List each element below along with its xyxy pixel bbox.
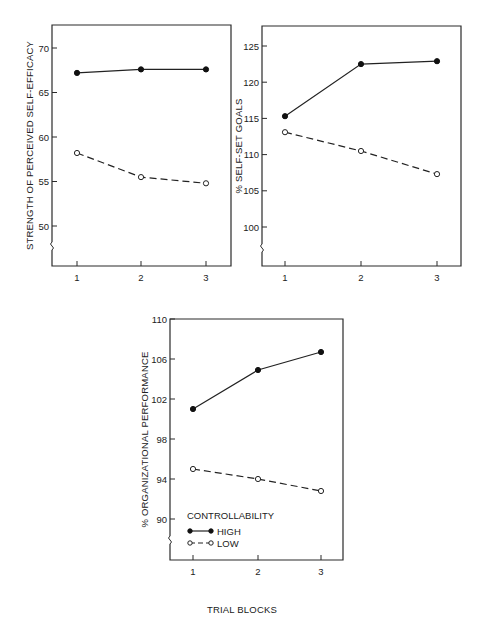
y-tick-label: 70 xyxy=(38,43,49,54)
x-tick-label: 3 xyxy=(318,566,323,577)
filled-circle-icon xyxy=(434,59,439,64)
y-tick-label: 100 xyxy=(243,222,259,233)
y-tick-label: 102 xyxy=(151,394,167,405)
open-circle-icon xyxy=(358,148,363,153)
y-tick-label: 110 xyxy=(244,149,259,160)
series-line-high xyxy=(193,352,321,409)
panel-organizational-performance: 909498102106110123% ORGANIZATIONAL PERFO… xyxy=(139,314,343,578)
open-circle-icon xyxy=(74,150,79,155)
open-circle-icon xyxy=(434,172,439,177)
filled-circle-icon xyxy=(74,70,79,75)
x-tick-label: 1 xyxy=(282,272,287,283)
open-circle-icon xyxy=(318,488,323,493)
x-tick-label: 1 xyxy=(74,272,79,283)
open-circle-icon xyxy=(190,466,195,471)
x-tick-label: 1 xyxy=(190,566,195,577)
y-tick-label: 105 xyxy=(243,185,259,196)
panel-self-set-goals: 100105110115120125123% SELF-SET GOALS xyxy=(233,26,461,283)
axis-break-icon xyxy=(51,242,54,250)
filled-circle-icon xyxy=(138,67,143,72)
legend-title: CONTROLLABILITY xyxy=(187,510,275,521)
open-circle-icon xyxy=(188,541,192,545)
filled-circle-icon xyxy=(255,367,260,372)
y-tick-label: 115 xyxy=(244,113,259,124)
figure: 5055606570123STRENGTH OF PERCEIVED SELF-… xyxy=(0,0,484,629)
legend-item-high: HIGH xyxy=(188,526,241,537)
filled-circle-icon xyxy=(318,349,323,354)
filled-circle-icon xyxy=(190,406,195,411)
x-tick-label: 2 xyxy=(138,272,143,283)
x-tick-label: 2 xyxy=(255,566,260,577)
x-tick-label: 2 xyxy=(358,272,363,283)
filled-circle-icon xyxy=(282,114,287,119)
y-tick-label: 120 xyxy=(243,77,259,88)
y-axis-title: % ORGANIZATIONAL PERFORMANCE xyxy=(139,351,150,527)
y-tick-label: 98 xyxy=(156,434,167,445)
y-tick-label: 110 xyxy=(152,314,167,325)
axis-break-icon xyxy=(169,536,172,544)
open-circle-icon xyxy=(138,175,143,180)
panel-self-efficacy: 5055606570123STRENGTH OF PERCEIVED SELF-… xyxy=(24,25,231,283)
y-tick-label: 94 xyxy=(156,474,167,485)
legend-item-low: LOW xyxy=(188,538,239,549)
open-circle-icon xyxy=(209,541,213,545)
legend-label-low: LOW xyxy=(217,538,239,549)
y-tick-label: 50 xyxy=(38,221,49,232)
filled-circle-icon xyxy=(209,529,213,533)
open-circle-icon xyxy=(203,181,208,186)
y-tick-label: 106 xyxy=(151,354,167,365)
series-line-high xyxy=(285,61,437,116)
axis-break-icon xyxy=(261,244,264,252)
x-axis-title: TRIAL BLOCKS xyxy=(0,604,484,615)
x-tick-label: 3 xyxy=(434,272,439,283)
y-tick-label: 55 xyxy=(38,176,49,187)
filled-circle-icon xyxy=(188,529,192,533)
legend-label-high: HIGH xyxy=(217,526,241,537)
y-tick-label: 65 xyxy=(38,87,49,98)
open-circle-icon xyxy=(255,476,260,481)
legend: CONTROLLABILITY HIGH LOW xyxy=(187,510,275,549)
plot-frame xyxy=(52,25,231,266)
filled-circle-icon xyxy=(358,62,363,67)
x-tick-label: 3 xyxy=(203,272,208,283)
y-tick-label: 60 xyxy=(38,132,49,143)
open-circle-icon xyxy=(282,130,287,135)
y-axis-title: % SELF-SET GOALS xyxy=(233,99,244,194)
y-tick-label: 125 xyxy=(243,41,259,52)
figure-canvas: 5055606570123STRENGTH OF PERCEIVED SELF-… xyxy=(0,0,484,629)
filled-circle-icon xyxy=(203,67,208,72)
plot-frame xyxy=(170,319,343,560)
y-tick-label: 90 xyxy=(156,514,167,525)
y-axis-title: STRENGTH OF PERCEIVED SELF-EFFICACY xyxy=(24,40,35,250)
